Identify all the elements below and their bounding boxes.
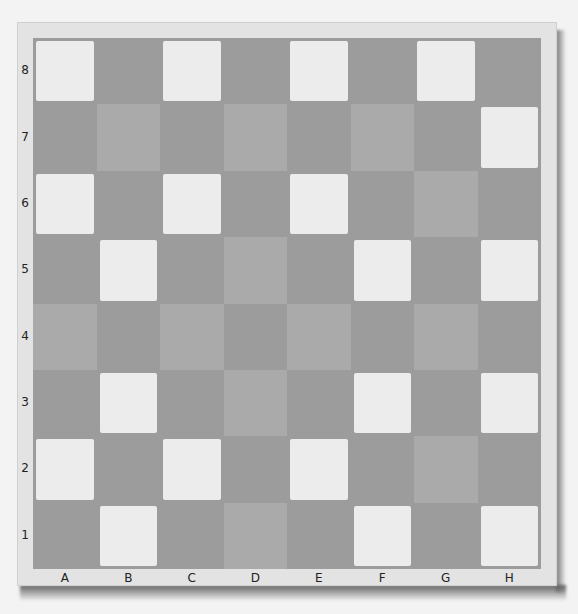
square-a8[interactable] (33, 38, 97, 104)
square-b5[interactable] (97, 237, 161, 303)
square-b7[interactable] (97, 104, 161, 170)
square-g8[interactable] (414, 38, 478, 104)
square-a3[interactable] (33, 370, 97, 436)
square-h5[interactable] (478, 237, 542, 303)
square-f2[interactable] (351, 436, 415, 502)
file-label: C (160, 570, 224, 586)
square-d2[interactable] (224, 436, 288, 502)
square-g2[interactable] (414, 436, 478, 502)
square-c7[interactable] (160, 104, 224, 170)
square-d7[interactable] (224, 104, 288, 170)
square-f4[interactable] (351, 304, 415, 370)
square-c5[interactable] (160, 237, 224, 303)
square-e8[interactable] (287, 38, 351, 104)
file-label: E (287, 570, 351, 586)
square-c2[interactable] (160, 436, 224, 502)
file-label: B (97, 570, 161, 586)
square-g5[interactable] (414, 237, 478, 303)
square-a2[interactable] (33, 436, 97, 502)
board-shadow-right (556, 30, 566, 592)
square-e2[interactable] (287, 436, 351, 502)
square-a4[interactable] (33, 304, 97, 370)
square-e1[interactable] (287, 503, 351, 569)
square-d5[interactable] (224, 237, 288, 303)
square-f7[interactable] (351, 104, 415, 170)
rank-label: 6 (17, 196, 33, 210)
square-h8[interactable] (478, 38, 542, 104)
square-h6[interactable] (478, 171, 542, 237)
square-b1[interactable] (97, 503, 161, 569)
square-e4[interactable] (287, 304, 351, 370)
square-h1[interactable] (478, 503, 542, 569)
square-e7[interactable] (287, 104, 351, 170)
file-label: A (33, 570, 97, 586)
square-a5[interactable] (33, 237, 97, 303)
rank-label: 5 (17, 262, 33, 276)
square-h2[interactable] (478, 436, 542, 502)
rank-label: 3 (17, 395, 33, 409)
file-label: H (478, 570, 542, 586)
square-c4[interactable] (160, 304, 224, 370)
square-h7[interactable] (478, 104, 542, 170)
square-a1[interactable] (33, 503, 97, 569)
square-a7[interactable] (33, 104, 97, 170)
square-e5[interactable] (287, 237, 351, 303)
square-f6[interactable] (351, 171, 415, 237)
square-g3[interactable] (414, 370, 478, 436)
square-d4[interactable] (224, 304, 288, 370)
rank-label: 8 (17, 63, 33, 77)
square-c3[interactable] (160, 370, 224, 436)
square-b4[interactable] (97, 304, 161, 370)
square-h3[interactable] (478, 370, 542, 436)
file-label: D (224, 570, 288, 586)
rank-label: 7 (17, 130, 33, 144)
square-f5[interactable] (351, 237, 415, 303)
square-g1[interactable] (414, 503, 478, 569)
square-f8[interactable] (351, 38, 415, 104)
rank-label: 4 (17, 329, 33, 343)
square-d3[interactable] (224, 370, 288, 436)
file-label: F (351, 570, 415, 586)
square-c6[interactable] (160, 171, 224, 237)
square-b6[interactable] (97, 171, 161, 237)
board-shadow-bottom (20, 585, 566, 601)
square-b3[interactable] (97, 370, 161, 436)
square-h4[interactable] (478, 304, 542, 370)
square-c1[interactable] (160, 503, 224, 569)
square-d8[interactable] (224, 38, 288, 104)
square-a6[interactable] (33, 171, 97, 237)
square-b8[interactable] (97, 38, 161, 104)
square-c8[interactable] (160, 38, 224, 104)
square-g4[interactable] (414, 304, 478, 370)
chess-board (33, 38, 541, 569)
square-g6[interactable] (414, 171, 478, 237)
square-g7[interactable] (414, 104, 478, 170)
square-f3[interactable] (351, 370, 415, 436)
square-d1[interactable] (224, 503, 288, 569)
rank-label: 2 (17, 461, 33, 475)
rank-label: 1 (17, 528, 33, 542)
square-e6[interactable] (287, 171, 351, 237)
square-d6[interactable] (224, 171, 288, 237)
file-label: G (414, 570, 478, 586)
square-e3[interactable] (287, 370, 351, 436)
square-b2[interactable] (97, 436, 161, 502)
square-f1[interactable] (351, 503, 415, 569)
